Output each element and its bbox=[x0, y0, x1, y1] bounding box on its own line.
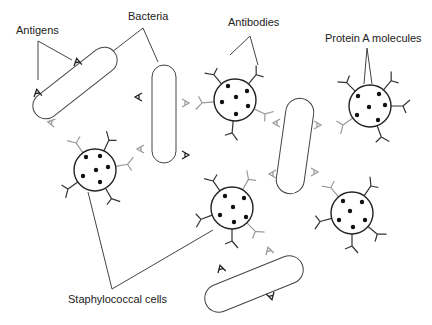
staph-cell-1 bbox=[58, 131, 135, 208]
label-protein-a: Protein A molecules bbox=[325, 32, 422, 44]
staph-cell-5 bbox=[312, 177, 387, 253]
label-staph-cells: Staphylococcal cells bbox=[68, 293, 167, 305]
label-antibodies: Antibodies bbox=[228, 16, 279, 28]
diagram-graphic bbox=[0, 0, 432, 325]
coagglutination-diagram: Antigens Bacteria Antibodies Protein A m… bbox=[0, 0, 432, 325]
label-antigens: Antigens bbox=[16, 24, 59, 36]
bacteria bbox=[28, 42, 316, 316]
label-bacteria: Bacteria bbox=[128, 10, 168, 22]
staph-cell-2 bbox=[195, 65, 274, 141]
